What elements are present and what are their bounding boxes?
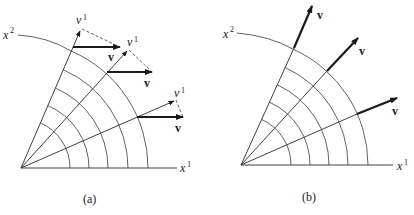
ray-b-2 [241, 71, 327, 165]
v-label-a2: v [144, 76, 150, 90]
v-label-b1: v [317, 8, 323, 22]
ray-2 [21, 51, 127, 168]
v1-label-1: v [76, 13, 82, 27]
caption-b: (b) [302, 190, 316, 204]
figure: x 2 x 1 v 1 v 1 v 1 v v v (a) x 2 x [0, 0, 414, 215]
x1-label-a: x [179, 161, 186, 175]
v-label-a3: v [175, 121, 181, 135]
v-label-b3: v [392, 104, 398, 118]
arc-4 [63, 70, 128, 168]
arc-2 [48, 106, 89, 169]
x2-sup-b: 2 [230, 25, 234, 34]
x1-label-b: x [396, 159, 403, 173]
projection-1 [82, 29, 120, 47]
v1-label-3: v [174, 86, 180, 100]
arc-3 [55, 88, 108, 168]
projection-3 [176, 100, 183, 117]
v1-sup-3: 1 [181, 86, 185, 95]
v1-sup-1: 1 [83, 13, 87, 22]
vector-v-b3 [357, 98, 397, 114]
caption-a: (a) [83, 192, 96, 206]
projection-2 [129, 50, 152, 72]
x2-label-a: x [2, 28, 9, 42]
vector-v-b2 [327, 38, 358, 71]
x2-label-b: x [222, 27, 229, 41]
v1-sup-2: 1 [134, 35, 138, 44]
ray-b-1 [241, 48, 294, 165]
v1-label-2: v [127, 35, 133, 49]
x1-sup-b: 1 [404, 158, 408, 167]
ray-b-3 [241, 114, 357, 165]
panel-b: x 2 x 1 v v v (b) [222, 6, 408, 204]
vector-v-b1 [294, 6, 312, 48]
x2-curve [18, 35, 148, 168]
ray-1 [21, 31, 80, 168]
v-label-a1: v [108, 50, 114, 64]
x2-sup-a: 2 [10, 26, 14, 35]
panel-a: x 2 x 1 v 1 v 1 v 1 v v v (a) [2, 13, 191, 206]
x2-curve-b [237, 33, 368, 165]
x1-sup-a: 1 [187, 160, 191, 169]
v-label-b2: v [359, 44, 365, 58]
ray-3 [21, 101, 174, 168]
